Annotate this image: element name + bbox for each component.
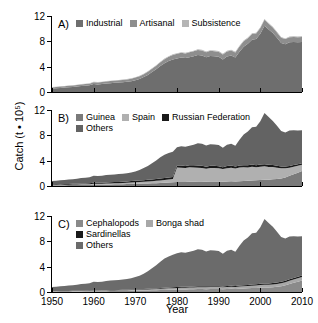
y-tick: [47, 267, 52, 268]
legend-entry-cephalopods: Cephalopods: [76, 218, 139, 229]
legend-entry-industrial: Industrial: [76, 18, 123, 29]
x-tick-label: 1960: [83, 296, 105, 307]
x-tick: [52, 88, 53, 92]
y-tick-label: 8: [39, 241, 45, 242]
panel-c: 048121950196019701980199020002010C)Cepha…: [52, 216, 302, 292]
legend-entry-others: Others: [76, 123, 113, 134]
x-tick: [219, 182, 220, 186]
legend-entry-artisanal: Artisanal: [130, 18, 175, 29]
panel-letter-b: B): [58, 112, 69, 124]
legend-swatch-icon: [130, 20, 137, 27]
y-axis-line-b: [51, 110, 52, 186]
legend-row: CephalopodsBonga shad: [76, 218, 300, 229]
y-tick-label: 12: [34, 110, 45, 111]
legend-label: Bonga shad: [156, 218, 204, 229]
x-tick: [177, 182, 178, 186]
y-tick: [47, 186, 52, 187]
x-tick: [94, 88, 95, 92]
x-axis-line-b: [51, 186, 302, 187]
x-tick: [302, 88, 303, 92]
x-tick-label: 2010: [291, 296, 313, 307]
y-tick: [47, 16, 52, 17]
legend-c: CephalopodsBonga shadSardinellasOthers: [76, 218, 300, 251]
y-tick: [47, 110, 52, 111]
legend-entry-russian-federation: Russian Federation: [162, 112, 250, 123]
x-tick: [135, 182, 136, 186]
y-tick-label: 8: [39, 135, 45, 136]
legend-row: IndustrialArtisanalSubsistence: [76, 18, 300, 29]
legend-label: Guinea: [86, 112, 115, 123]
legend-row: GuineaSpainRussian Federation: [76, 112, 300, 123]
area-industrial: [52, 26, 302, 92]
figure-stacked-area-catch: Catch (t • 10⁵) Year 04812A)IndustrialAr…: [0, 0, 318, 323]
x-tick-label: 1950: [41, 296, 63, 307]
x-tick-label: 1980: [166, 296, 188, 307]
legend-entry-subsistence: Subsistence: [182, 18, 241, 29]
x-tick-label: 1990: [208, 296, 230, 307]
y-tick-label: 0: [39, 92, 45, 93]
legend-label: Sardinellas: [86, 229, 131, 240]
y-tick-label: 12: [34, 216, 45, 217]
legend-swatch-icon: [76, 125, 83, 132]
y-tick-label: 4: [39, 161, 45, 162]
legend-row: Others: [76, 123, 300, 134]
x-tick-labels: 1950196019701980199020002010: [52, 292, 302, 306]
y-tick-label: 12: [34, 16, 45, 17]
legend-entry-sardinellas: Sardinellas: [76, 229, 131, 240]
legend-label: Others: [86, 123, 113, 134]
y-tick: [47, 67, 52, 68]
x-tick: [302, 182, 303, 186]
panel-b: 04812B)GuineaSpainRussian FederationOthe…: [52, 110, 302, 186]
legend-swatch-icon: [162, 114, 169, 121]
x-tick: [260, 88, 261, 92]
y-axis-label: Catch (t • 10⁵): [13, 90, 25, 182]
y-tick: [47, 241, 52, 242]
x-tick-label: 2000: [249, 296, 271, 307]
legend-row: Others: [76, 240, 300, 251]
y-tick: [47, 92, 52, 93]
legend-swatch-icon: [76, 231, 83, 238]
x-tick: [260, 182, 261, 186]
legend-row: Sardinellas: [76, 229, 300, 240]
legend-a: IndustrialArtisanalSubsistence: [76, 18, 300, 29]
y-tick-label: 4: [39, 267, 45, 268]
legend-swatch-icon: [146, 220, 153, 227]
panel-letter-a: A): [58, 18, 69, 30]
y-tick-label: 4: [39, 67, 45, 68]
x-axis-line-a: [51, 92, 302, 93]
legend-label: Cephalopods: [86, 218, 139, 229]
legend-entry-bonga-shad: Bonga shad: [146, 218, 204, 229]
legend-swatch-icon: [76, 220, 83, 227]
legend-swatch-icon: [76, 114, 83, 121]
panel-letter-c: C): [58, 218, 70, 230]
legend-entry-spain: Spain: [122, 112, 155, 123]
x-tick: [219, 88, 220, 92]
legend-swatch-icon: [76, 20, 83, 27]
y-tick: [47, 41, 52, 42]
legend-label: Artisanal: [140, 18, 175, 29]
x-tick: [52, 182, 53, 186]
panel-a: 04812A)IndustrialArtisanalSubsistence: [52, 16, 302, 92]
y-axis-line-a: [51, 16, 52, 92]
legend-label: Spain: [132, 112, 155, 123]
legend-label: Industrial: [86, 18, 123, 29]
y-tick-label: 0: [39, 186, 45, 187]
legend-entry-guinea: Guinea: [76, 112, 115, 123]
legend-b: GuineaSpainRussian FederationOthers: [76, 112, 300, 134]
legend-entry-others: Others: [76, 240, 113, 251]
legend-label: Others: [86, 240, 113, 251]
legend-label: Russian Federation: [172, 112, 250, 123]
y-tick: [47, 161, 52, 162]
legend-swatch-icon: [76, 242, 83, 249]
legend-swatch-icon: [122, 114, 129, 121]
y-tick: [47, 135, 52, 136]
x-tick: [302, 288, 303, 292]
y-tick: [47, 216, 52, 217]
x-tick: [94, 182, 95, 186]
x-tick: [177, 88, 178, 92]
x-tick-label: 1970: [124, 296, 146, 307]
y-axis-line-c: [51, 216, 52, 292]
x-tick: [135, 88, 136, 92]
legend-swatch-icon: [182, 20, 189, 27]
y-tick-label: 8: [39, 41, 45, 42]
